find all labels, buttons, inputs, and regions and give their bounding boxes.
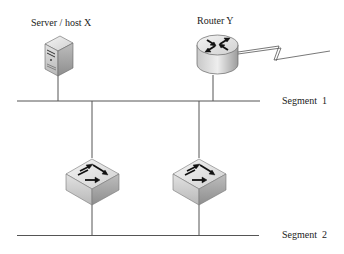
router-icon — [197, 35, 238, 74]
server-label: Server / host X — [31, 17, 91, 28]
router-label: Router Y — [197, 15, 234, 26]
server-icon — [45, 36, 73, 76]
network-diagram: Server / host X Router Y Segment 1 Segme… — [0, 0, 344, 254]
wan-link-icon — [238, 46, 330, 60]
switch-2-icon — [173, 159, 226, 205]
segment-2-label: Segment 2 — [282, 229, 327, 240]
switch-1-icon — [66, 159, 119, 205]
diagram-graphics — [0, 0, 344, 254]
segment-1-label: Segment 1 — [282, 95, 327, 106]
